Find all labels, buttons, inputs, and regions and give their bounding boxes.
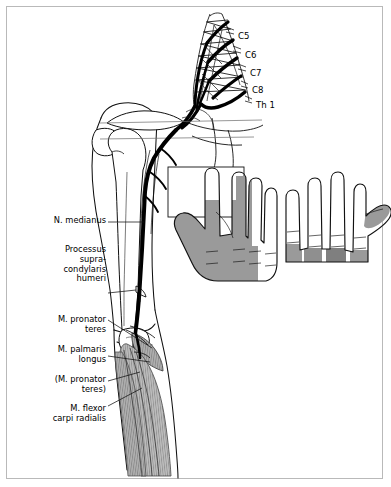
brachial-plexus-roots bbox=[176, 22, 245, 130]
label-processus-supracondylaris-humeri: Processussupra-condylarishumeri bbox=[14, 245, 106, 284]
label-line: teres) bbox=[10, 385, 106, 395]
label-line: longus bbox=[14, 355, 106, 365]
forearm-flexor-muscle-mass bbox=[115, 344, 171, 476]
root-label-c5: C5 bbox=[238, 31, 249, 41]
label-n-medianus: N. medianus bbox=[14, 216, 106, 226]
label-line: humeri bbox=[14, 274, 106, 284]
root-label-c8: C8 bbox=[252, 85, 263, 95]
root-label-c6: C6 bbox=[245, 50, 256, 60]
label-m-pronator-teres: M. pronatorteres bbox=[14, 315, 106, 335]
figure-page: C5C6C7C8Th 1 N. medianusProcessussupra-c… bbox=[0, 0, 391, 487]
label-m-pronator-teres-parenthetical: (M. pronatorteres) bbox=[10, 375, 106, 395]
root-label-th1: Th 1 bbox=[256, 100, 275, 110]
root-label-c7: C7 bbox=[250, 68, 261, 78]
label-m-flexor-carpi-radialis: M. flexorcarpi radialis bbox=[10, 404, 106, 424]
label-line: carpi radialis bbox=[10, 414, 106, 424]
dorsal-hand-diagram bbox=[286, 172, 391, 272]
label-line: N. medianus bbox=[14, 216, 106, 226]
label-m-palmaris-longus: M. palmarislongus bbox=[14, 345, 106, 365]
palmar-hand-diagram bbox=[168, 167, 277, 284]
label-line: teres bbox=[14, 325, 106, 335]
